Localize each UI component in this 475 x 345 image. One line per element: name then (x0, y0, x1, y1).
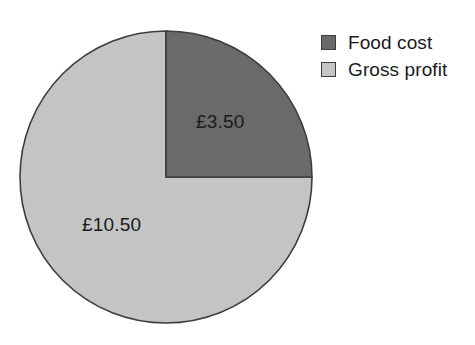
pie-slice-label-gross-profit: £10.50 (82, 215, 141, 234)
chart-legend: Food cost Gross profit (321, 29, 471, 83)
legend-label-food-cost: Food cost (348, 33, 432, 52)
pie-slice-food-cost[interactable] (166, 31, 312, 177)
legend-item-food-cost[interactable]: Food cost (321, 29, 471, 56)
pie-chart-figure: £3.50 £10.50 Food cost Gross profit (0, 0, 475, 345)
pie-slice-label-food-cost: £3.50 (196, 112, 245, 131)
legend-swatch-gross-profit (321, 62, 336, 77)
legend-item-gross-profit[interactable]: Gross profit (321, 56, 471, 83)
legend-swatch-food-cost (321, 35, 336, 50)
legend-label-gross-profit: Gross profit (348, 60, 447, 79)
